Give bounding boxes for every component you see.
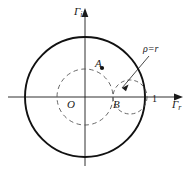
y-axis-arrowhead-icon <box>82 8 89 17</box>
figure-container: Γi Γr O B A 1 ρ=r <box>0 0 191 173</box>
y-axis-label: Γi <box>74 6 82 19</box>
x-tick-one-label: 1 <box>152 94 157 104</box>
x-axis-label-subscript: r <box>178 103 181 112</box>
rho-equals-r-annotation: ρ=r <box>143 44 158 54</box>
y-axis-label-subscript: i <box>80 10 82 19</box>
diagram-canvas <box>0 0 191 173</box>
point-a-label: A <box>95 58 102 69</box>
origin-label: O <box>67 99 75 110</box>
x-axis-label: Γr <box>172 99 181 112</box>
annotation-arrowhead-icon <box>122 85 129 92</box>
point-b-label: B <box>113 99 120 110</box>
annotation-leader-line <box>122 56 149 88</box>
